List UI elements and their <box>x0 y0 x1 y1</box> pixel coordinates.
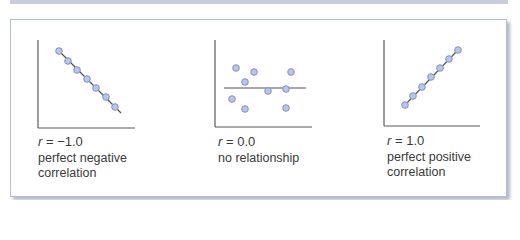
r-value-label: r = 0.0 <box>218 134 299 149</box>
caption-negative: r = −1.0 perfect negativecorrelation <box>38 134 127 181</box>
chart-no-relationship <box>215 40 312 127</box>
r-value-label: r = 1.0 <box>387 133 471 148</box>
description-label: perfect positivecorrelation <box>387 150 471 180</box>
chart-positive-correlation <box>384 40 480 126</box>
description-label: perfect negativecorrelation <box>38 151 127 181</box>
chart-negative-correlation <box>38 40 135 128</box>
description-label: no relationship <box>218 151 299 166</box>
caption-none: r = 0.0 no relationship <box>218 134 299 166</box>
caption-positive: r = 1.0 perfect positivecorrelation <box>387 133 471 180</box>
r-value-label: r = −1.0 <box>38 134 127 149</box>
